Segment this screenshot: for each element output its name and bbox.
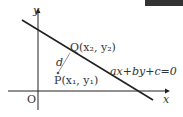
origin-label: O: [27, 93, 36, 106]
line-equation-label: ax+by+c=0: [110, 65, 177, 78]
corner-banner: [145, 0, 183, 6]
point-p-label: P(x₁, y₁): [54, 74, 98, 87]
point-q-label: Q(x₂, y₂): [70, 41, 116, 54]
distance-label: d: [56, 56, 63, 69]
line-ax-by-c: [22, 20, 153, 100]
x-axis-label: x: [163, 93, 170, 106]
y-axis-label: y: [32, 4, 40, 17]
distance-diagram: y x O Q(x₂, y₂) P(x₁, y₁) d ax+by+c=0: [0, 0, 183, 117]
